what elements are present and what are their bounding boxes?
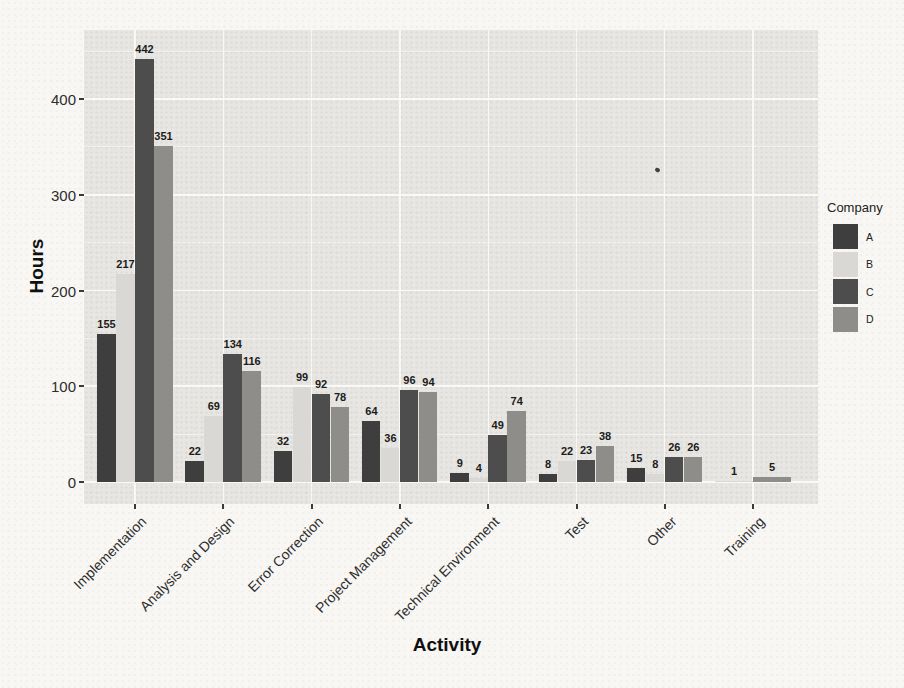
bar-value-label: 74 [511, 396, 523, 407]
bar [116, 274, 135, 482]
major-gridline [84, 98, 818, 100]
x-axis-tick [487, 504, 489, 509]
major-gridline [84, 290, 818, 292]
legend-key-label: B [866, 258, 873, 270]
x-axis-tick [664, 504, 666, 509]
bar [450, 473, 469, 482]
bar-value-label: 155 [97, 319, 115, 330]
bar-value-label: 22 [189, 446, 201, 457]
bar-value-label: 49 [492, 420, 504, 431]
y-axis-tick [79, 194, 84, 196]
bar [684, 457, 703, 482]
figure: 1552174423512269134116329992786436969494… [0, 0, 904, 688]
category-gridline [488, 30, 489, 504]
x-category-label: Test [562, 514, 590, 542]
minor-gridline [84, 146, 818, 147]
bar [665, 457, 684, 482]
y-axis-tick [79, 290, 84, 292]
legend-swatch [833, 224, 858, 249]
bar [274, 451, 293, 482]
category-gridline [576, 30, 577, 504]
bar-value-label: 69 [208, 401, 220, 412]
bar [97, 334, 116, 482]
y-axis-tick [79, 481, 84, 483]
legend: Company ABCD [827, 200, 883, 334]
bar [753, 477, 791, 482]
y-axis-tick [79, 385, 84, 387]
bar [507, 411, 526, 482]
x-category-label: Analysis and Design [138, 514, 238, 614]
x-category-label: Other [644, 514, 679, 549]
bar-value-label: 8 [545, 459, 551, 470]
bar-value-label: 96 [403, 375, 415, 386]
bar-value-label: 26 [668, 442, 680, 453]
bar-value-label: 26 [687, 442, 699, 453]
x-axis-tick [576, 504, 578, 509]
bar [204, 416, 223, 482]
bar-value-label: 9 [457, 458, 463, 469]
legend-key: D [833, 307, 883, 332]
x-category-label: Training [722, 514, 767, 559]
bar-value-label: 23 [580, 445, 592, 456]
minor-gridline [84, 338, 818, 339]
legend-key: C [833, 279, 883, 304]
x-category-label: Implementation [71, 514, 149, 592]
bar-value-label: 64 [365, 406, 377, 417]
bar [469, 478, 488, 482]
legend-key: B [833, 252, 883, 277]
bar-value-label: 5 [769, 462, 775, 473]
minor-gridline [84, 242, 818, 243]
bar-value-label: 1 [731, 466, 737, 477]
major-gridline [84, 385, 818, 387]
category-gridline [752, 30, 753, 504]
bar-value-label: 8 [652, 459, 658, 470]
bar-value-label: 94 [422, 377, 434, 388]
x-axis-tick [134, 504, 136, 509]
bar [400, 390, 419, 482]
bar-value-label: 22 [561, 446, 573, 457]
bar [419, 392, 438, 482]
legend-key-label: D [866, 313, 874, 325]
bar [135, 59, 154, 482]
bar-value-label: 351 [154, 131, 172, 142]
x-category-label: Technical Environment [393, 514, 503, 624]
bar [293, 387, 312, 482]
bar [381, 448, 400, 482]
bar-value-label: 36 [384, 433, 396, 444]
y-axis-tick [79, 98, 84, 100]
legend-key-label: C [866, 286, 874, 298]
bar [312, 394, 331, 482]
y-tick-label: 400 [30, 92, 76, 107]
bar [539, 474, 558, 482]
minor-gridline [84, 434, 818, 435]
bar-value-label: 15 [630, 453, 642, 464]
bar-value-label: 32 [277, 436, 289, 447]
bar [715, 481, 753, 482]
y-tick-label: 100 [30, 379, 76, 394]
legend-title: Company [827, 200, 883, 215]
bar [154, 146, 173, 482]
x-axis-tick [752, 504, 754, 509]
legend-key-label: A [866, 231, 873, 243]
bar-value-label: 442 [135, 44, 153, 55]
bar-value-label: 4 [476, 463, 482, 474]
legend-swatch [833, 307, 858, 332]
y-axis-title: Hours [26, 239, 48, 294]
bar [488, 435, 507, 482]
legend-swatch [833, 279, 858, 304]
bar-value-label: 99 [296, 372, 308, 383]
legend-key: A [833, 224, 883, 249]
bar [627, 468, 646, 482]
legend-keys: ABCD [833, 224, 883, 332]
bar [558, 461, 577, 482]
category-gridline [664, 30, 665, 504]
bar-value-label: 38 [599, 431, 611, 442]
y-tick-label: 0 [30, 475, 76, 490]
bar-value-label: 92 [315, 379, 327, 390]
bar [223, 354, 242, 482]
minor-gridline [84, 51, 818, 52]
bar [596, 446, 615, 482]
bar-value-label: 116 [243, 356, 261, 367]
bar [646, 474, 665, 482]
x-axis-tick [399, 504, 401, 509]
